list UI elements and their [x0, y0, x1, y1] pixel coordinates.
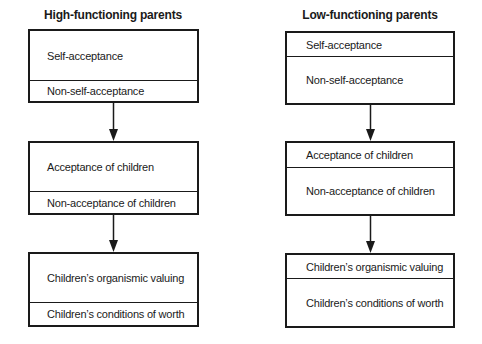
cell-organismic-valuing: Children’s organismic valuing [287, 255, 453, 278]
cell-self-acceptance: Self-acceptance [287, 33, 453, 56]
cell-non-self-acceptance: Non-self-acceptance [30, 80, 197, 101]
column-title-high-functioning: High-functioning parents [28, 7, 198, 23]
arrow-down-icon [108, 215, 119, 252]
arrow-down-icon [365, 105, 376, 141]
box-acceptance-of-children-low: Acceptance of children Non-acceptance of… [285, 141, 455, 216]
cell-non-acceptance-of-children: Non-acceptance of children [287, 167, 453, 214]
arrow-down-icon [108, 103, 119, 141]
arrow-down-icon [365, 216, 376, 253]
cell-conditions-of-worth: Children’s conditions of worth [287, 278, 453, 326]
cell-non-acceptance-of-children: Non-acceptance of children [30, 191, 197, 213]
cell-acceptance-of-children: Acceptance of children [287, 143, 453, 167]
box-acceptance-of-children-high: Acceptance of children Non-acceptance of… [28, 141, 199, 215]
cell-acceptance-of-children: Acceptance of children [30, 143, 197, 191]
box-self-acceptance-high: Self-acceptance Non-self-acceptance [28, 29, 199, 103]
box-children-valuing-low: Children’s organismic valuing Children’s… [285, 253, 455, 328]
box-children-valuing-high: Children’s organismic valuing Children’s… [28, 252, 199, 327]
box-self-acceptance-low: Self-acceptance Non-self-acceptance [285, 31, 455, 105]
column-title-low-functioning: Low-functioning parents [285, 7, 455, 23]
cell-organismic-valuing: Children’s organismic valuing [30, 254, 197, 302]
cell-non-self-acceptance: Non-self-acceptance [287, 56, 453, 103]
cell-self-acceptance: Self-acceptance [30, 31, 197, 80]
cell-conditions-of-worth: Children’s conditions of worth [30, 302, 197, 325]
